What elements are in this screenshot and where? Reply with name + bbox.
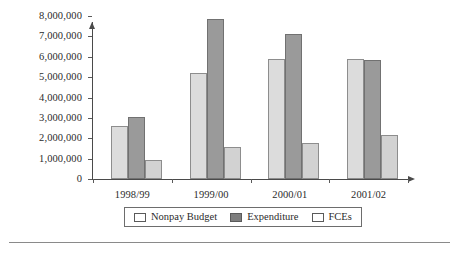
legend-item-expenditure[interactable]: Expenditure bbox=[230, 210, 298, 224]
x-axis-category-label-2000-01: 2000/01 bbox=[272, 188, 307, 202]
bottom-divider bbox=[9, 242, 450, 243]
legend-label: Expenditure bbox=[247, 210, 298, 224]
y-axis-tick-label: 8,000,000 bbox=[39, 8, 82, 23]
y-axis-tick-label: 2,000,000 bbox=[39, 130, 82, 145]
legend-swatch-nonpay-budget bbox=[134, 213, 146, 222]
x-axis-tick bbox=[93, 179, 94, 183]
y-axis-tick: 0 bbox=[88, 179, 92, 180]
legend-label: Nonpay Budget bbox=[151, 210, 217, 224]
bar-2001-02-expenditure bbox=[364, 60, 381, 179]
legend-swatch-fces bbox=[312, 213, 324, 222]
bar-1998-99-nonpay-budget bbox=[111, 126, 128, 179]
bar-2001-02-fces bbox=[381, 135, 398, 179]
x-axis-arrow-icon bbox=[408, 176, 415, 182]
bar-1998-99-expenditure bbox=[128, 117, 145, 179]
chart-legend: Nonpay BudgetExpenditureFCEs bbox=[124, 207, 362, 227]
y-axis-tick-label: 0 bbox=[77, 171, 82, 186]
x-axis-tick bbox=[329, 179, 330, 183]
bars-layer bbox=[93, 16, 408, 179]
y-axis-tick: 3,000,000 bbox=[88, 118, 92, 119]
x-axis-category-label-2001-02: 2001/02 bbox=[351, 188, 386, 202]
y-axis-tick: 5,000,000 bbox=[88, 77, 92, 78]
y-axis-tick-label: 3,000,000 bbox=[39, 110, 82, 125]
y-axis-tick: 1,000,000 bbox=[88, 159, 92, 160]
x-axis-tick bbox=[172, 179, 173, 183]
y-axis-tick: 7,000,000 bbox=[88, 36, 92, 37]
y-axis-tick-label: 4,000,000 bbox=[39, 90, 82, 105]
legend-label: FCEs bbox=[329, 210, 352, 224]
y-axis-tick-label: 7,000,000 bbox=[39, 28, 82, 43]
chart-figure: 01,000,0002,000,0003,000,0004,000,0005,0… bbox=[0, 0, 457, 257]
plot-area: 01,000,0002,000,0003,000,0004,000,0005,0… bbox=[92, 16, 416, 180]
x-axis-tick bbox=[408, 179, 409, 183]
legend-swatch-expenditure bbox=[230, 213, 242, 222]
legend-item-nonpay-budget[interactable]: Nonpay Budget bbox=[134, 210, 217, 224]
bar-2000-01-nonpay-budget bbox=[268, 59, 285, 179]
x-axis-category-label-1998-99: 1998/99 bbox=[115, 188, 150, 202]
y-axis-tick-label: 1,000,000 bbox=[39, 151, 82, 166]
y-axis-tick-label: 6,000,000 bbox=[39, 49, 82, 64]
y-axis-tick: 8,000,000 bbox=[88, 16, 92, 17]
bar-1999-00-expenditure bbox=[207, 19, 224, 179]
y-axis-tick-label: 5,000,000 bbox=[39, 69, 82, 84]
legend-item-fces[interactable]: FCEs bbox=[312, 210, 352, 224]
y-axis-tick: 2,000,000 bbox=[88, 138, 92, 139]
bar-2000-01-fces bbox=[302, 143, 319, 179]
bar-1999-00-fces bbox=[224, 147, 241, 179]
y-axis-tick: 6,000,000 bbox=[88, 57, 92, 58]
x-axis-category-label-1999-00: 1999/00 bbox=[194, 188, 229, 202]
x-axis-tick bbox=[251, 179, 252, 183]
bar-1998-99-fces bbox=[145, 160, 162, 179]
bar-2001-02-nonpay-budget bbox=[347, 59, 364, 179]
y-axis-tick: 4,000,000 bbox=[88, 98, 92, 99]
bar-1999-00-nonpay-budget bbox=[190, 73, 207, 179]
bar-2000-01-expenditure bbox=[285, 34, 302, 179]
